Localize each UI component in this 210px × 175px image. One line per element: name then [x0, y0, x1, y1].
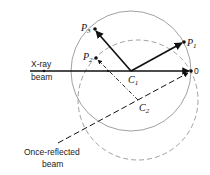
p1-label: P1: [186, 37, 197, 50]
vector-c1-p1: [131, 43, 182, 71]
vector-c1-p3: [96, 31, 131, 71]
point-p3: [93, 27, 97, 31]
point-origin: [189, 69, 193, 73]
point-p2: [94, 56, 98, 60]
xray-label-2: beam: [31, 72, 52, 82]
c2-label: C2: [139, 102, 150, 115]
reflected-label-2: beam: [42, 159, 63, 169]
reflected-label-1: Once-reflected: [24, 147, 80, 157]
p3-label: P3: [80, 22, 91, 35]
reflected-beam-line: [58, 73, 188, 143]
xray-label-1: X-ray: [31, 59, 52, 69]
point-p1: [182, 40, 186, 44]
p2-label: P2: [82, 51, 93, 64]
c1-label: C1: [128, 74, 138, 87]
origin-label: 0: [194, 66, 199, 76]
ewald-sphere-diagram: X-ray beam Once-reflected beam 0 P3 P2 P…: [0, 0, 210, 175]
